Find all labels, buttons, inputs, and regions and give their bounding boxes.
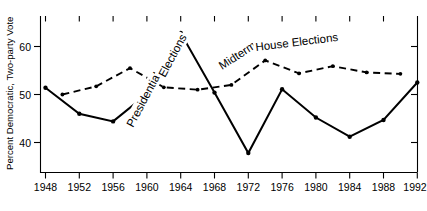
data-point [263, 59, 267, 63]
x-axis-top-ticks [46, 16, 384, 22]
data-point [230, 83, 234, 87]
data-point [94, 84, 98, 88]
x-tick-label-1984: 1984 [338, 181, 362, 193]
x-tick-label-1948: 1948 [34, 181, 58, 193]
annotation-presidential-line1: Presidential [124, 70, 163, 129]
x-tick-label-1976: 1976 [270, 181, 294, 193]
axis-lines [41, 16, 418, 173]
annotation-presidential: Presidential Elections [122, 30, 190, 131]
y-axis-title: Percent Democratic, Two-party Vote [4, 17, 15, 170]
y-tick-label-50: 50 [19, 89, 31, 101]
annotation-presidential-line2: Elections [156, 32, 189, 79]
x-tick-label-1980: 1980 [304, 181, 328, 193]
election-vote-line-chart: 60 50 40 Percent Democratic, Two-party V… [0, 0, 427, 211]
data-point [331, 64, 335, 68]
data-point [128, 66, 132, 70]
x-tick-label-1992: 1992 [403, 181, 427, 193]
x-axis-ticks [46, 173, 418, 179]
data-point [314, 115, 318, 119]
data-point [196, 88, 200, 92]
x-tick-label-1968: 1968 [203, 181, 227, 193]
data-point [280, 87, 284, 91]
data-point [162, 85, 166, 89]
presidential-markers [43, 31, 419, 155]
x-tick-label-1956: 1956 [101, 181, 125, 193]
data-point [43, 86, 47, 90]
y-tick-label-40: 40 [19, 137, 31, 149]
annotation-midterm-line1: Midterm [217, 39, 258, 72]
data-point [348, 135, 352, 139]
data-point [212, 90, 216, 94]
x-tick-label-1988: 1988 [372, 181, 396, 193]
y-tick-label-60: 60 [19, 41, 31, 53]
annotation-midterm: Midterm House Elections [214, 30, 339, 74]
annotation-midterm-line2: House Elections [255, 31, 339, 53]
x-tick-label-1964: 1964 [169, 181, 193, 193]
data-point [381, 118, 385, 122]
data-point [399, 72, 403, 76]
data-point [61, 93, 65, 97]
x-axis-tick-labels: 1948 1952 1956 1960 1964 1968 1972 1976 … [34, 181, 427, 193]
x-tick-label-1952: 1952 [68, 181, 92, 193]
data-point [246, 151, 250, 155]
chart-figure: 60 50 40 Percent Democratic, Two-party V… [0, 0, 427, 211]
data-point [77, 112, 81, 116]
data-point [365, 71, 369, 75]
data-point [297, 71, 301, 75]
data-point [111, 119, 115, 123]
series-presidential-elections [43, 31, 419, 155]
x-tick-label-1960: 1960 [135, 181, 159, 193]
x-tick-label-1972: 1972 [237, 181, 261, 193]
data-point [415, 80, 419, 84]
